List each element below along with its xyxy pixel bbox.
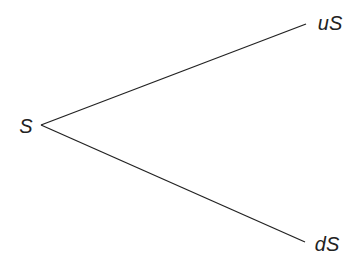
node-label-up: uS bbox=[318, 12, 343, 34]
edge-root-to-down bbox=[41, 125, 305, 242]
edge-root-to-up bbox=[41, 24, 306, 125]
tree-canvas: S uS dS bbox=[0, 0, 363, 273]
node-label-down: dS bbox=[315, 233, 340, 255]
node-label-root: S bbox=[19, 115, 33, 137]
binomial-tree-diagram: S uS dS bbox=[0, 0, 363, 273]
